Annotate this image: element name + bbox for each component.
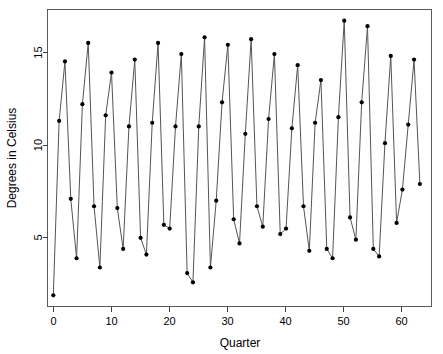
data-point bbox=[74, 256, 78, 260]
data-point bbox=[197, 124, 201, 128]
data-point bbox=[319, 78, 323, 82]
temperature-line-chart: 15 10 5 0 10 20 30 40 50 60 Degrees in C… bbox=[0, 0, 443, 354]
data-point bbox=[51, 293, 55, 297]
data-point bbox=[127, 124, 131, 128]
data-point bbox=[208, 265, 212, 269]
data-point bbox=[371, 247, 375, 251]
data-point bbox=[307, 249, 311, 253]
data-point bbox=[115, 206, 119, 210]
x-tick-label-10: 10 bbox=[105, 315, 117, 327]
data-point bbox=[80, 102, 84, 106]
data-point bbox=[179, 52, 183, 56]
data-point bbox=[226, 43, 230, 47]
data-point bbox=[237, 241, 241, 245]
data-point bbox=[290, 126, 294, 130]
data-point bbox=[92, 204, 96, 208]
data-point bbox=[249, 37, 253, 41]
data-point bbox=[69, 197, 73, 201]
x-tick-label-0: 0 bbox=[50, 315, 56, 327]
data-point bbox=[354, 238, 358, 242]
data-point bbox=[214, 199, 218, 203]
data-point bbox=[220, 100, 224, 104]
data-point bbox=[383, 141, 387, 145]
data-point bbox=[330, 256, 334, 260]
data-point bbox=[202, 35, 206, 39]
data-point bbox=[313, 121, 317, 125]
chart-container: 15 10 5 0 10 20 30 40 50 60 Degrees in C… bbox=[0, 0, 443, 354]
data-point bbox=[138, 236, 142, 240]
data-point bbox=[232, 217, 236, 221]
y-axis-title: Degrees in Celsius bbox=[5, 108, 19, 209]
x-axis-tick-labels: 0 10 20 30 40 50 60 bbox=[50, 315, 407, 327]
data-point bbox=[284, 226, 288, 230]
data-point bbox=[156, 41, 160, 45]
x-tick-label-60: 60 bbox=[395, 315, 407, 327]
y-tick-label-5: 5 bbox=[32, 234, 44, 240]
data-point bbox=[133, 58, 137, 62]
x-tick-label-30: 30 bbox=[221, 315, 233, 327]
data-series-line bbox=[53, 21, 420, 296]
data-point bbox=[278, 232, 282, 236]
data-point bbox=[389, 54, 393, 58]
data-point bbox=[266, 117, 270, 121]
data-point bbox=[400, 187, 404, 191]
data-point bbox=[63, 59, 67, 63]
data-point bbox=[121, 247, 125, 251]
data-point bbox=[412, 58, 416, 62]
data-point bbox=[418, 182, 422, 186]
data-point bbox=[144, 252, 148, 256]
data-point bbox=[406, 122, 410, 126]
data-point bbox=[272, 52, 276, 56]
y-axis-tick-labels: 15 10 5 bbox=[32, 46, 44, 240]
x-tick-label-40: 40 bbox=[279, 315, 291, 327]
y-tick-label-15: 15 bbox=[32, 46, 44, 58]
x-tick-label-50: 50 bbox=[337, 315, 349, 327]
x-tick-label-20: 20 bbox=[163, 315, 175, 327]
y-tick-label-10: 10 bbox=[32, 139, 44, 151]
data-point bbox=[185, 271, 189, 275]
data-point bbox=[301, 204, 305, 208]
data-point bbox=[86, 41, 90, 45]
data-point bbox=[162, 223, 166, 227]
data-point bbox=[104, 113, 108, 117]
data-point bbox=[173, 124, 177, 128]
data-point bbox=[150, 121, 154, 125]
data-point bbox=[261, 225, 265, 229]
data-point bbox=[98, 265, 102, 269]
x-axis-title: Quarter bbox=[220, 336, 261, 350]
data-point bbox=[109, 71, 113, 75]
data-point bbox=[336, 115, 340, 119]
plot-frame bbox=[48, 10, 432, 307]
data-point bbox=[57, 119, 61, 123]
data-point bbox=[191, 280, 195, 284]
data-point bbox=[296, 63, 300, 67]
data-point bbox=[243, 132, 247, 136]
data-point bbox=[394, 221, 398, 225]
data-point bbox=[325, 247, 329, 251]
data-point bbox=[365, 24, 369, 28]
data-series-points bbox=[51, 19, 422, 298]
data-point bbox=[255, 204, 259, 208]
data-point bbox=[377, 254, 381, 258]
data-point bbox=[360, 100, 364, 104]
data-point bbox=[168, 226, 172, 230]
data-point bbox=[348, 215, 352, 219]
x-axis-ticks bbox=[54, 307, 402, 312]
data-point bbox=[342, 19, 346, 23]
